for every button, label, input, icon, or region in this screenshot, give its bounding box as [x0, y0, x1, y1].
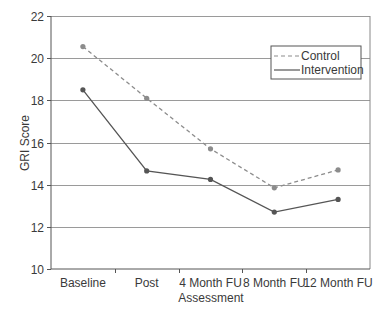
x-tick-label: Post: [135, 276, 160, 290]
legend: Control Intervention: [271, 46, 364, 79]
y-tick-label: 14: [31, 179, 45, 193]
y-tick-label: 12: [31, 221, 45, 235]
x-tick-label: 4 Month FU: [179, 276, 242, 290]
x-tick-label: 12 Month FU: [303, 276, 372, 290]
data-point-marker: [144, 168, 149, 173]
y-tick-label: 10: [31, 263, 45, 277]
data-point-marker: [336, 167, 341, 172]
y-axis-ticks: 10121416182022: [31, 10, 51, 277]
y-tick-label: 22: [31, 10, 45, 24]
legend-label-control: Control: [301, 49, 340, 63]
data-point-marker: [208, 146, 213, 151]
x-tick-label: Baseline: [60, 276, 106, 290]
data-point-marker: [272, 209, 277, 214]
y-axis-title: GRI Score: [18, 115, 32, 171]
data-point-marker: [272, 185, 277, 190]
data-point-marker: [208, 177, 213, 182]
data-point-marker: [80, 87, 85, 92]
legend-label-intervention: Intervention: [301, 63, 364, 77]
y-tick-label: 16: [31, 137, 45, 151]
x-axis-title: Assessment: [178, 291, 244, 305]
data-point-marker: [336, 197, 341, 202]
x-axis-ticks: BaselinePost4 Month FU8 Month FU12 Month…: [60, 269, 373, 290]
data-point-marker: [144, 96, 149, 101]
y-tick-label: 20: [31, 52, 45, 66]
x-tick-label: 8 Month FU: [243, 276, 306, 290]
line-chart: 10121416182022 BaselinePost4 Month FU8 M…: [0, 0, 383, 311]
data-point-marker: [80, 44, 85, 49]
y-tick-label: 18: [31, 94, 45, 108]
